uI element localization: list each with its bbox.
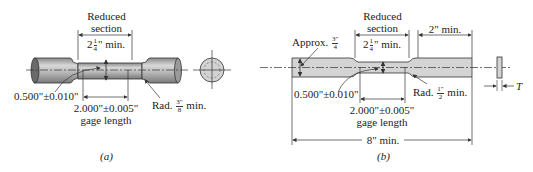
thickness-side-view (497, 57, 502, 78)
fraction: 3"4 (332, 36, 338, 51)
gage-length-label-b: 2.000"±0.005" gage length (346, 104, 418, 128)
reduced-label-line1: Reduced (360, 10, 405, 22)
radius-prefix: Rad. (152, 99, 172, 111)
fraction-den: 4 (94, 46, 98, 53)
caption-a: (a) (100, 150, 113, 162)
width-label-b: 0.500"±0.010" (294, 88, 359, 100)
caption-b: (b) (377, 150, 390, 162)
thickness-label-b: T (516, 80, 522, 92)
reduced-length-a: 214" min. (87, 38, 125, 53)
gage-length-text: gage length (346, 116, 418, 128)
radius-label-b: Rad. 1"2 min. (413, 86, 467, 101)
reduced-label-line2: section (84, 22, 129, 34)
length-unit: " min. (98, 38, 125, 50)
gage-length-value: 2.000"±0.005" (70, 102, 142, 114)
grip-length-label-b: 2" min. (422, 23, 468, 35)
gage-length-text: gage length (70, 114, 142, 126)
length-whole: 2 (363, 38, 369, 50)
radius-label-a: Rad. 3"8 min. (152, 99, 206, 114)
approx-width-label-b: Approx. 3"4 (292, 36, 339, 51)
overall-length-label-b: 8" min. (362, 134, 404, 146)
approx-prefix: Approx. (292, 36, 328, 48)
radius-prefix: Rad. (413, 86, 433, 98)
length-unit: " min. (374, 38, 401, 50)
fraction: 3"8 (176, 99, 182, 114)
end-view-round (193, 50, 231, 89)
fraction: 14 (94, 38, 98, 53)
gage-length-label-a: 2.000"±0.005" gage length (70, 102, 142, 126)
radius-suffix: min. (186, 99, 206, 111)
fraction-den: 8 (176, 107, 182, 114)
reduced-section-label-a: Reduced section (84, 10, 129, 34)
fraction: 14 (370, 38, 374, 53)
reduced-section-label-b: Reduced section (360, 10, 405, 34)
fraction-den: 4 (332, 44, 338, 51)
radius-suffix: min. (447, 86, 467, 98)
gage-length-value: 2.000"±0.005" (346, 104, 418, 116)
fraction-den: 4 (370, 46, 374, 53)
fraction: 1"2 (437, 86, 443, 101)
reduced-label-line2: section (360, 22, 405, 34)
length-whole: 2 (87, 38, 93, 50)
fraction-den: 2 (437, 94, 443, 101)
reduced-length-b: 214" min. (363, 38, 401, 53)
diameter-label-a: 0.500"±0.010" (14, 90, 79, 102)
reduced-label-line1: Reduced (84, 10, 129, 22)
